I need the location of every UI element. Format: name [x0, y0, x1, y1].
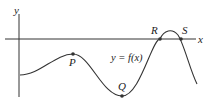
point-q [120, 94, 124, 98]
y-axis-label: y [13, 4, 19, 16]
function-graph: y x P Q R S y = f(x) [0, 0, 208, 101]
point-r-label: R [150, 24, 158, 36]
point-s [179, 37, 183, 41]
x-axis-label: x [197, 33, 203, 45]
point-p-label: P [68, 56, 76, 68]
point-s-label: S [182, 24, 188, 36]
curve-f [20, 31, 197, 96]
point-r [158, 37, 162, 41]
point-q-label: Q [118, 80, 126, 92]
curve-label: y = f(x) [110, 52, 143, 64]
